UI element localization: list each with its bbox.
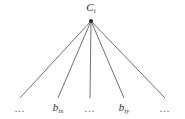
edge-to-ellipsis-right (91, 21, 165, 98)
edge-layer (0, 0, 185, 119)
leaf-bix-label: bix (53, 102, 64, 113)
leaf-bix-subscript: ix (58, 107, 63, 115)
leaf-ellipsis-middle-label: ... (85, 104, 96, 114)
leaf-ellipsis-right-label: ... (160, 104, 171, 114)
leaf-biy-label: biy (119, 102, 130, 113)
edge-to-bix (58, 21, 91, 98)
root-node-subscript: i (94, 7, 96, 15)
leaf-bix-base: b (53, 101, 59, 113)
edge-to-ellipsis-left (20, 21, 91, 98)
root-node-label: Ci (86, 2, 95, 13)
leaf-ellipsis-left-label: ... (15, 104, 26, 114)
figure-canvas: Ci ... bix ... biy ... (0, 0, 185, 119)
edge-to-ellipsis-middle (90, 21, 91, 98)
root-node-dot (89, 19, 93, 23)
edge-to-biy (91, 21, 124, 98)
leaf-biy-base: b (119, 101, 125, 113)
leaf-biy-subscript: iy (124, 107, 129, 115)
